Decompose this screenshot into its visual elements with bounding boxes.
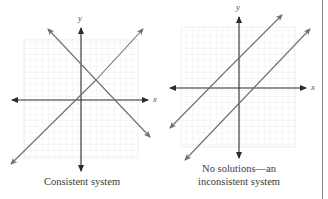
caption-line: No solutions—an (184, 162, 294, 175)
caption-consistent: Consistent system (32, 175, 132, 188)
y-axis-label: y (236, 2, 240, 12)
right-border (322, 0, 323, 199)
consistent-system-graph (11, 28, 150, 171)
caption-line: inconsistent system (184, 175, 294, 188)
x-axis-label: x (311, 82, 315, 92)
inconsistent-system-graph (170, 15, 310, 160)
caption-line: Consistent system (44, 176, 120, 187)
x-axis-label: x (153, 94, 157, 104)
y-axis-label: y (78, 13, 82, 23)
caption-inconsistent: No solutions—an inconsistent system (184, 162, 294, 188)
grid (181, 27, 295, 147)
